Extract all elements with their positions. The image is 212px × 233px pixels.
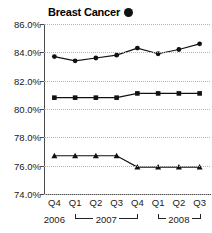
x-axis-tick-label: Q4 bbox=[131, 197, 144, 208]
y-axis-tick-label: 76.0% bbox=[0, 160, 41, 171]
x-axis-tick-label: Q3 bbox=[110, 197, 123, 208]
chart-container: Breast Cancer 86.0%84.0%82.0%80.0%78.0%7… bbox=[0, 0, 212, 233]
data-point-marker bbox=[73, 95, 78, 100]
plot-area bbox=[44, 24, 210, 194]
x-axis-labels: Q4Q1Q2Q3Q4Q1Q2Q3 bbox=[0, 197, 212, 211]
year-bracket-line bbox=[119, 218, 137, 219]
y-axis-tick bbox=[40, 81, 44, 82]
x-axis-tick-label: Q3 bbox=[193, 197, 206, 208]
year-bracket-tick bbox=[137, 214, 138, 219]
y-axis-tick-label: 86.0% bbox=[0, 19, 41, 30]
gridline bbox=[44, 24, 210, 25]
gridline bbox=[44, 52, 210, 53]
year-bracket-line bbox=[75, 218, 93, 219]
gridline bbox=[44, 109, 210, 110]
data-point-marker bbox=[177, 91, 182, 96]
x-axis-tick-label: Q1 bbox=[69, 197, 82, 208]
data-point-marker bbox=[135, 91, 140, 96]
gridline bbox=[44, 81, 210, 82]
x-axis-tick-label: Q1 bbox=[152, 197, 165, 208]
x-axis-year-label: 2007 bbox=[96, 214, 117, 225]
year-bracket-tick bbox=[75, 214, 76, 219]
data-point-marker bbox=[135, 46, 140, 51]
y-axis-tick bbox=[40, 109, 44, 110]
x-axis-tick-label: Q2 bbox=[90, 197, 103, 208]
x-axis-tick-label: Q2 bbox=[173, 197, 186, 208]
y-axis-tick bbox=[40, 52, 44, 53]
y-axis-tick-label: 80.0% bbox=[0, 104, 41, 115]
x-axis-year-label: 2006 bbox=[44, 214, 65, 225]
year-bracket-line bbox=[158, 218, 166, 219]
year-bracket-tick bbox=[158, 214, 159, 219]
data-point-marker bbox=[197, 91, 202, 96]
gridline bbox=[44, 194, 210, 195]
x-axis-year-label: 2008 bbox=[168, 214, 189, 225]
y-axis-tick bbox=[40, 166, 44, 167]
y-axis-tick bbox=[40, 194, 44, 195]
gridline bbox=[44, 166, 210, 167]
data-point-marker bbox=[197, 41, 202, 46]
data-point-marker bbox=[73, 58, 78, 63]
x-axis-year-labels: 200620072008 bbox=[0, 211, 212, 231]
data-point-marker bbox=[94, 95, 99, 100]
data-point-marker bbox=[156, 91, 161, 96]
year-bracket-tick bbox=[200, 214, 201, 219]
data-point-marker bbox=[176, 47, 181, 52]
data-point-marker bbox=[52, 54, 57, 59]
y-axis-tick-label: 84.0% bbox=[0, 47, 41, 58]
y-axis-tick-label: 78.0% bbox=[0, 132, 41, 143]
data-point-marker bbox=[114, 95, 119, 100]
data-point-marker bbox=[93, 56, 98, 61]
data-point-marker bbox=[114, 53, 119, 58]
gridline bbox=[44, 137, 210, 138]
data-point-marker bbox=[52, 95, 57, 100]
year-bracket-line bbox=[192, 218, 200, 219]
y-axis-tick bbox=[40, 24, 44, 25]
y-axis-tick bbox=[40, 137, 44, 138]
x-axis-tick-label: Q4 bbox=[48, 197, 61, 208]
y-axis-tick-label: 82.0% bbox=[0, 75, 41, 86]
